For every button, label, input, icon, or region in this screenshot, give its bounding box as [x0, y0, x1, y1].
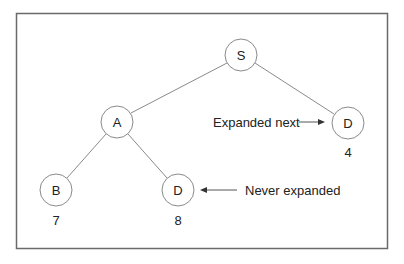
arrowhead-icon: [200, 187, 207, 193]
node-label: S: [237, 48, 246, 63]
node-label: D: [343, 116, 352, 131]
node-value: 4: [344, 145, 351, 160]
node-value: 7: [52, 213, 59, 228]
node-value: 8: [174, 213, 181, 228]
node-label: B: [52, 183, 61, 198]
node-d-bottom: D 8: [162, 174, 194, 228]
node-a: A: [101, 106, 133, 138]
annotation-text: Never expanded: [245, 183, 340, 198]
edge-s-a: [131, 63, 227, 113]
node-d-right: D 4: [332, 107, 364, 160]
edge-s-d-right: [255, 63, 334, 114]
node-label: A: [113, 115, 122, 130]
diagram-frame: [17, 14, 388, 249]
edge-a-b: [67, 134, 106, 178]
annotation-text: Expanded next: [213, 115, 300, 130]
node-label: D: [173, 183, 182, 198]
node-s: S: [225, 39, 257, 71]
search-tree-diagram: S A D 4 B 7 D 8 Expanded next Never expa…: [0, 0, 404, 264]
edge-a-d-bottom: [128, 134, 167, 178]
arrowhead-icon: [318, 119, 325, 125]
annotation-never-expanded: Never expanded: [200, 183, 340, 198]
annotation-expanded-next: Expanded next: [213, 115, 325, 130]
node-b: B 7: [40, 174, 72, 228]
